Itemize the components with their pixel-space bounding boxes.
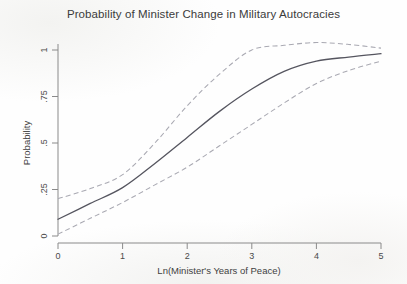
series-line-2 <box>58 61 381 234</box>
x-tick-label-5: 5 <box>378 251 383 261</box>
x-tick-label-3: 3 <box>249 251 254 261</box>
y-tick-label-1: 1 <box>39 47 49 52</box>
y-tick-label-5: .5 <box>39 139 49 147</box>
series-line-0 <box>58 43 381 199</box>
chart-figure: Probability of Minister Change in Milita… <box>0 0 407 284</box>
x-tick-label-2: 2 <box>185 251 190 261</box>
series-layer <box>58 43 381 235</box>
x-axis-ticks <box>58 243 381 249</box>
y-tick-label-25: .25 <box>39 183 49 196</box>
y-axis-title: Probability <box>21 121 32 166</box>
plot-area: 0 .25 .5 .75 1 Probability 0 1 2 3 4 5 L… <box>0 0 407 284</box>
x-axis-title: Ln(Minister's Years of Peace) <box>157 265 280 276</box>
x-tick-label-1: 1 <box>120 251 125 261</box>
y-tick-label-75: .75 <box>39 90 49 103</box>
y-axis-ticks <box>52 50 58 236</box>
y-tick-label-0: 0 <box>39 233 49 238</box>
x-axis-tick-labels: 0 1 2 3 4 5 <box>55 251 383 261</box>
x-tick-label-0: 0 <box>55 251 60 261</box>
y-axis-tick-labels: 0 .25 .5 .75 1 <box>39 47 49 238</box>
x-tick-label-4: 4 <box>314 251 319 261</box>
series-line-1 <box>58 54 381 220</box>
